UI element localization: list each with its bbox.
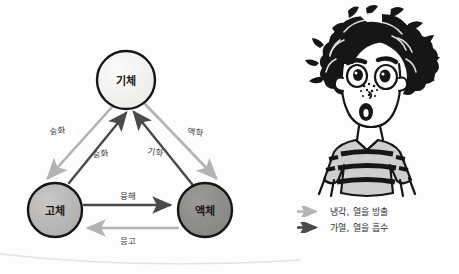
state-change-diagram: 기체 고체 액체 승화 승화 액화 기화 융해 응고 (0, 0, 280, 274)
mouth-inner-shape (363, 109, 368, 117)
diagram-page: 기체 고체 액체 승화 승화 액화 기화 융해 응고 (0, 0, 459, 274)
node-liquid[interactable] (178, 183, 232, 237)
pupil-left-shape (353, 69, 363, 81)
node-solid[interactable] (28, 183, 82, 237)
legend-item-heating: 가열, 열을 흡수 (296, 219, 456, 235)
legend: 냉각, 열을 방출 가열, 열을 흡수 (296, 203, 456, 235)
eye-glint-right (381, 72, 384, 75)
edge-label-liquefaction: 액화 (187, 124, 205, 138)
legend-label-cooling: 냉각, 열을 방출 (330, 205, 388, 218)
diagram-canvas (0, 0, 280, 274)
pupil-right-shape (380, 70, 391, 83)
eyebrow-right-shape (378, 58, 396, 62)
arrow-right-icon (296, 222, 324, 233)
edge-label-vaporization: 기화 (147, 144, 165, 158)
ear-right-shape (399, 78, 407, 91)
edge-label-sublimation: 승화 (91, 146, 109, 160)
edge-label-solidification: 응고 (120, 234, 136, 246)
surprised-boy-illustration (296, 2, 446, 200)
node-gas[interactable] (97, 51, 155, 109)
boy-cartoon-icon (296, 2, 446, 200)
edge-liquefaction (145, 104, 216, 178)
ear-left-shape (335, 78, 343, 91)
edge-label-deposition: 승화 (48, 123, 66, 137)
arrow-right-icon (296, 206, 324, 217)
neck-shape (357, 126, 383, 140)
eye-glint-left (355, 72, 358, 75)
eyebrow-left-shape (348, 60, 365, 63)
legend-item-cooling: 냉각, 열을 방출 (296, 203, 456, 219)
legend-label-heating: 가열, 열을 흡수 (330, 221, 388, 234)
edge-label-melting: 융해 (120, 189, 136, 201)
